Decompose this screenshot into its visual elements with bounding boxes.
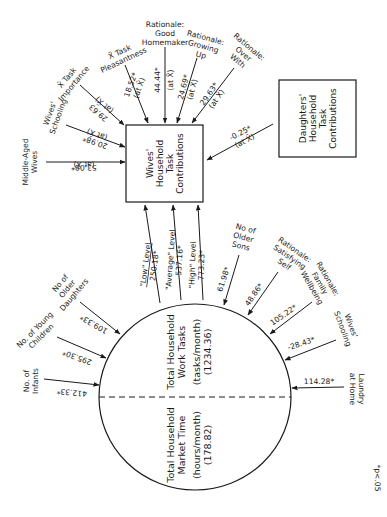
wives-node-line-3: Task	[165, 153, 175, 174]
svg-text:Good: Good	[155, 29, 175, 38]
path-average-level: "Average" Level 537.16*	[164, 205, 186, 300]
significance-footnote: *p<.05	[373, 464, 382, 491]
daughters-node-line-2: Household	[308, 95, 318, 143]
svg-text:(1234.36): (1234.36)	[202, 329, 213, 376]
svg-text:No. of: No. of	[22, 370, 31, 393]
svg-text:Rationale:: Rationale:	[146, 20, 184, 29]
path-high-level: "High" Level 773.23*	[187, 205, 207, 300]
svg-text:Middle-Aged: Middle-Aged	[21, 138, 30, 185]
path-wives-schooling-to-work: Wives' Schooling -28.43*	[285, 307, 362, 360]
path-laundry-at-home: Laundry at Home 114.28*	[292, 373, 366, 406]
svg-text:at Home: at Home	[348, 373, 357, 406]
work-tasks-label: Total Household Work Tasks (tasks/month)…	[165, 314, 213, 390]
wives-node-line-1: Wives'	[145, 149, 155, 178]
svg-text:Total Household: Total Household	[165, 314, 176, 390]
daughters-node-line-4: Contributions	[328, 88, 338, 149]
svg-text:Infants: Infants	[31, 368, 40, 394]
path-low-level: "Low" Level 250.18*	[138, 205, 161, 303]
path-family-wellbeing: Rationale: Family Wellbeing 105.22*	[269, 260, 342, 334]
path-middle-aged-wives: Middle-Aged Wives 53.08* (at X̄)	[21, 138, 125, 185]
svg-text:(178.82): (178.82)	[202, 425, 213, 466]
svg-text:Market Time: Market Time	[176, 415, 187, 474]
svg-text:*p<.05: *p<.05	[373, 464, 382, 491]
svg-text:Work Tasks: Work Tasks	[176, 326, 187, 379]
svg-text:412.33*: 412.33*	[56, 387, 87, 399]
market-time-label: Total Household Market Time (hours/month…	[165, 407, 213, 483]
svg-text:Laundry: Laundry	[357, 374, 366, 405]
svg-text:(hours/month): (hours/month)	[191, 411, 202, 479]
daughters-node-line-1: Daughters'	[298, 94, 308, 144]
daughters-contributions-node: Daughters' Household Task Contributions	[279, 80, 356, 157]
svg-text:537.16*: 537.16*	[174, 245, 185, 276]
svg-text:Wives: Wives	[30, 151, 39, 174]
svg-text:61.98*: 61.98*	[215, 266, 232, 293]
daughters-node-line-3: Task	[318, 108, 328, 129]
svg-text:Homemaker: Homemaker	[142, 38, 189, 47]
svg-text:109.33*: 109.33*	[78, 313, 109, 336]
path-older-daughters: No of Older Daughters 109.33*	[44, 265, 120, 336]
path-infants: No. of Infants 412.33*	[22, 368, 99, 398]
svg-text:(at X̄): (at X̄)	[166, 69, 175, 90]
svg-text:Total Household: Total Household	[165, 407, 176, 483]
svg-text:114.28*: 114.28*	[304, 377, 335, 386]
household-circle-node: Total Household Work Tasks (tasks/month)…	[99, 304, 291, 490]
path-wives-schooling-to-wives: Wives' Schooling 20.98* (at X̄)	[39, 94, 125, 151]
svg-text:44.44*: 44.44*	[153, 67, 162, 93]
path-diagram: Wives' Household Task Contributions Daug…	[0, 0, 387, 517]
svg-text:773.23*: 773.23*	[196, 250, 206, 281]
wives-node-line-2: Household	[155, 140, 165, 188]
svg-text:(at X̄): (at X̄)	[73, 160, 94, 169]
wives-contributions-node: Wives' Household Task Contributions	[126, 125, 203, 202]
path-daughters-to-wives: -0.25* (at X̄)	[207, 123, 273, 160]
svg-text:(tasks/month): (tasks/month)	[191, 319, 202, 385]
wives-node-line-4: Contributions	[175, 133, 185, 194]
